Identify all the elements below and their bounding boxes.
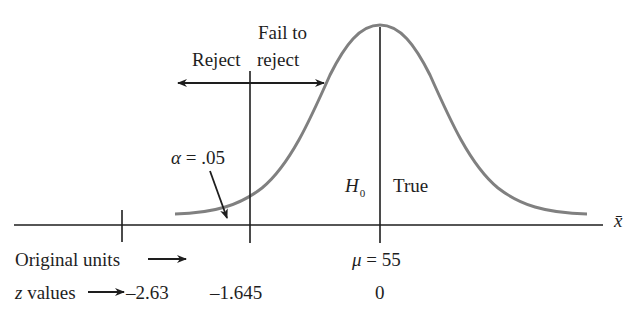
normal-curve-diagram (0, 0, 642, 319)
fail-to-reject-label: reject (257, 50, 299, 69)
z-tick-label-2: –1.645 (210, 283, 262, 302)
alpha-symbol: α (171, 147, 181, 168)
mu-symbol: μ (352, 249, 362, 270)
h0-symbol: H (345, 175, 359, 196)
mu-value: = 55 (366, 249, 400, 270)
mu-label: μ = 55 (352, 250, 401, 269)
h0-label: H0 (345, 176, 365, 195)
true-label: True (393, 176, 428, 195)
alpha-label: α = .05 (171, 148, 225, 167)
original-units-label: Original units (15, 250, 120, 269)
z-symbol: z (15, 282, 22, 303)
z-values-text: values (27, 282, 76, 303)
z-values-label: z values (15, 283, 76, 302)
z-tick-label-3: 0 (375, 283, 385, 302)
fail-to-label: Fail to (258, 23, 307, 42)
alpha-value: = .05 (186, 147, 225, 168)
reject-label: Reject (192, 50, 241, 69)
z-tick-label-1: –2.63 (126, 283, 169, 302)
h0-subscript: 0 (360, 187, 366, 199)
x-bar-label: x̄ (614, 211, 622, 230)
